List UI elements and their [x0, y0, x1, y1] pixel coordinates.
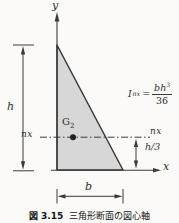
neutral-axis-label-left: nx — [21, 130, 33, 139]
centroid-height-label: h/3 — [145, 142, 160, 152]
y-axis-label: y — [52, 0, 58, 11]
h-dim-up-arrowhead-icon — [21, 46, 25, 55]
formula-fraction: bh3 36 — [152, 81, 172, 106]
figure-caption-title: 三角形断面の図心軸 — [69, 211, 150, 221]
figure-caption-number: 図 3.15 — [29, 211, 63, 221]
height-dimension-label: h — [7, 101, 14, 112]
centroid-symbol: G — [62, 116, 70, 127]
h3-dim-down-arrowhead-icon — [134, 161, 138, 169]
figure-canvas: y x h nx nx h/3 b G2 Inx = bh3 36 図 3.15… — [0, 0, 179, 223]
h3-dim-up-arrowhead-icon — [134, 139, 138, 147]
moment-of-inertia-formula: Inx = bh3 36 — [128, 81, 172, 106]
b-dim-left-arrowhead-icon — [58, 194, 66, 198]
centroid-point — [70, 134, 76, 140]
b-dim-right-arrowhead-icon — [115, 194, 123, 198]
y-axis-arrowhead-icon — [55, 12, 60, 22]
formula-symbol: I — [128, 88, 132, 99]
neutral-axis-label-right: nx — [150, 127, 162, 136]
formula-subscript: nx — [132, 90, 140, 98]
figure-caption: 図 3.15三角形断面の図心軸 — [0, 209, 179, 222]
triangle-cross-section — [57, 45, 123, 170]
base-dimension-label: b — [85, 181, 92, 192]
formula-numerator: bh3 — [152, 81, 172, 95]
centroid-subscript: 2 — [70, 122, 74, 130]
centroid-label: G2 — [62, 117, 74, 130]
formula-numerator-base: bh — [154, 82, 166, 93]
formula-numerator-exponent: 3 — [166, 81, 170, 88]
h-dim-down-arrowhead-icon — [21, 161, 25, 170]
formula-equals: = — [142, 88, 150, 99]
formula-denominator: 36 — [152, 95, 172, 107]
x-axis-label: x — [163, 161, 169, 172]
x-axis-arrowhead-icon — [153, 168, 161, 173]
